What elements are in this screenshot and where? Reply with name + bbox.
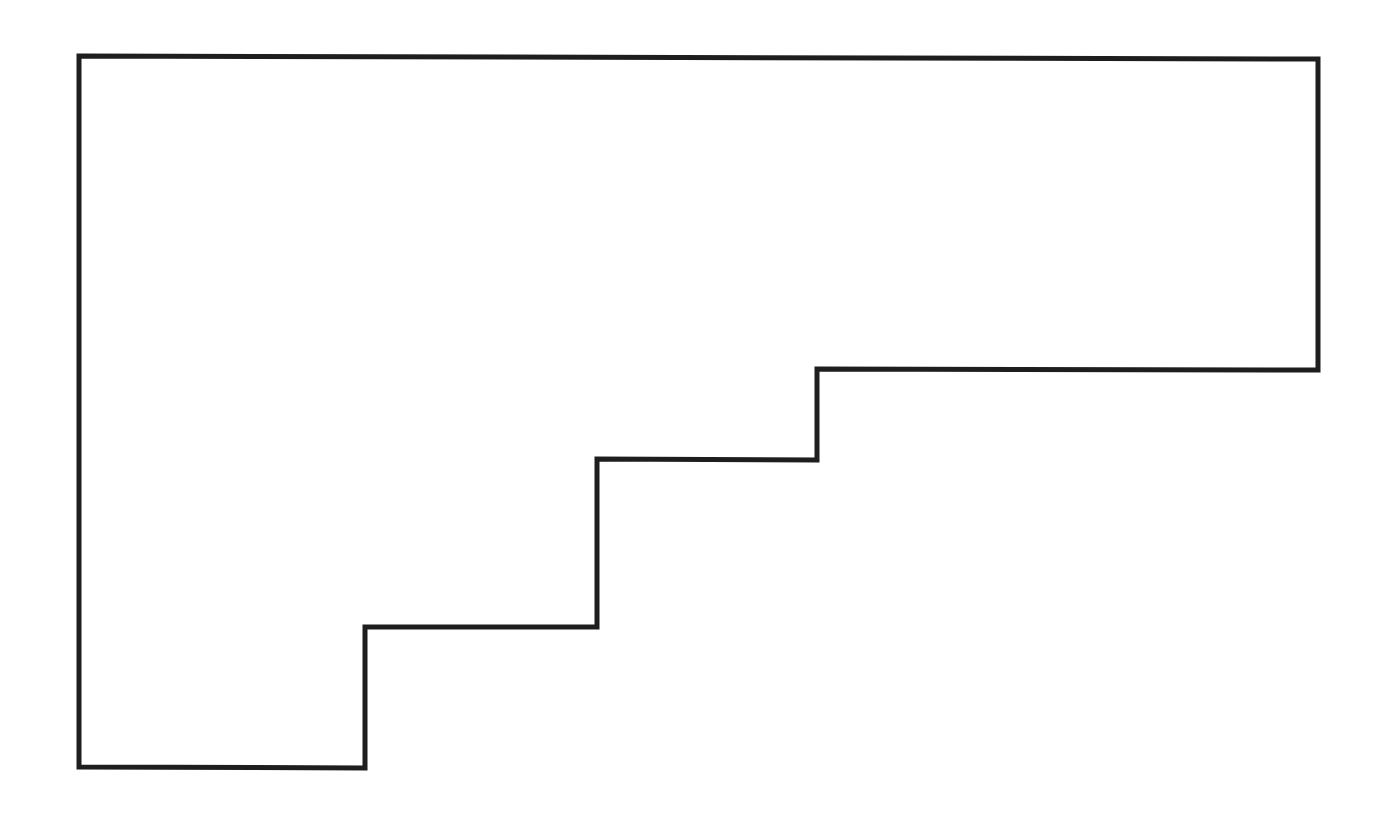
background: [0, 0, 1400, 814]
diagram-canvas: [0, 0, 1400, 814]
